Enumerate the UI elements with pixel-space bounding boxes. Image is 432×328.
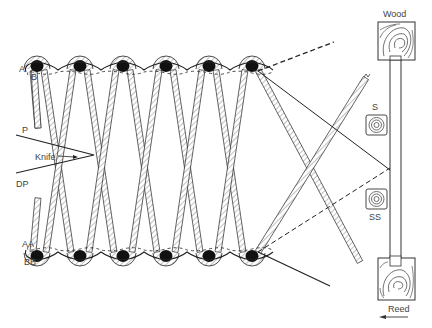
wire-aa	[25, 250, 273, 260]
wire-bottom-solid-exit	[258, 252, 330, 286]
wood-block-top	[378, 22, 415, 60]
reed-frame	[378, 22, 415, 300]
wire-a	[25, 62, 273, 72]
label-p: P	[22, 125, 28, 135]
label-reed: Reed	[388, 304, 410, 314]
reed-bar	[390, 56, 401, 268]
label-a: A	[19, 64, 25, 74]
reed-direction-arrow	[379, 315, 408, 319]
label-ss: SS	[369, 212, 381, 222]
cane-strands	[30, 69, 370, 264]
strand-cut-end	[364, 74, 370, 77]
binding-wires	[25, 42, 390, 286]
wire-b	[27, 71, 273, 75]
wood-block-bottom	[378, 256, 415, 300]
spool-ss	[366, 189, 387, 209]
label-wood: Wood	[383, 9, 406, 19]
spool-s	[366, 115, 387, 135]
label-dp: DP	[16, 179, 29, 189]
label-aa: AA	[22, 239, 34, 249]
label-knife: Knife	[35, 152, 56, 162]
label-b: B	[31, 72, 37, 82]
label-s: S	[372, 102, 378, 112]
weaving-diagram: A B P Knife DP AA BB S SS Wood Reed	[0, 0, 432, 328]
diagram-canvas: A B P Knife DP AA BB S SS Wood Reed	[0, 0, 432, 328]
label-bb: BB	[24, 257, 36, 267]
wire-bb	[27, 247, 273, 251]
wire-top-dashed-exit	[258, 42, 334, 71]
wire-bottom-dashed-to-reed	[258, 168, 390, 252]
